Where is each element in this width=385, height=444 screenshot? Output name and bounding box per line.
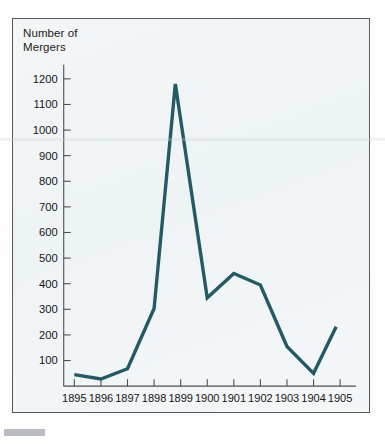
x-tick-label: 1903	[275, 392, 300, 404]
x-tick-label: 1904	[301, 392, 326, 404]
y-tick-group: 100200300400500600700800900100011001200	[33, 73, 71, 367]
x-tick-group: 1895189618971898189919001901190219031904…	[62, 379, 352, 404]
x-tick-label: 1899	[168, 392, 193, 404]
mergers-data-line	[74, 84, 336, 379]
x-tick-label: 1901	[222, 392, 247, 404]
x-tick-label: 1896	[89, 392, 114, 404]
footer-marker-bar	[4, 429, 45, 436]
y-tick-label: 900	[39, 150, 58, 162]
y-tick-label: 600	[39, 226, 58, 238]
x-tick-label: 1898	[142, 392, 167, 404]
y-tick-label: 1200	[33, 73, 58, 85]
figure-root: Number ofMergers 10020030040050060070080…	[0, 0, 385, 444]
x-tick-label: 1905	[328, 392, 353, 404]
y-tick-label: 400	[39, 278, 58, 290]
y-tick-label: 100	[39, 355, 58, 367]
y-tick-label: 1100	[34, 98, 58, 110]
y-tick-label: 500	[39, 252, 58, 264]
x-tick-label: 1902	[248, 392, 273, 404]
y-tick-label: 200	[39, 329, 58, 341]
y-tick-label: 700	[39, 201, 58, 213]
x-tick-label: 1897	[115, 392, 140, 404]
chart-frame: Number ofMergers 10020030040050060070080…	[12, 18, 370, 413]
x-tick-label: 1900	[195, 392, 220, 404]
y-tick-label: 1000	[33, 124, 58, 136]
x-tick-label: 1895	[62, 392, 87, 404]
line-chart-plot: 100200300400500600700800900100011001200 …	[13, 19, 369, 412]
y-tick-label: 800	[39, 175, 58, 187]
y-tick-label: 300	[39, 303, 58, 315]
